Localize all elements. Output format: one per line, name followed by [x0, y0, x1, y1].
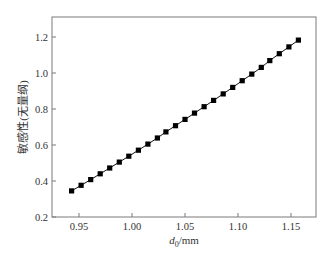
x-axis-ticks: 0.951.001.051.101.15 [70, 213, 300, 232]
data-point-marker [192, 111, 197, 116]
data-point-marker [296, 38, 301, 43]
data-point-marker [69, 188, 74, 193]
data-point-marker [202, 104, 207, 109]
x-tick-label: 1.00 [123, 221, 141, 232]
y-tick-label: 1.2 [35, 32, 48, 43]
y-tick-label: 1.0 [35, 68, 48, 79]
data-point-marker [286, 44, 291, 49]
data-point-marker [107, 165, 112, 170]
data-point-marker [211, 98, 216, 103]
data-point-marker [88, 177, 93, 182]
data-point-marker [155, 135, 160, 140]
data-point-marker [230, 85, 235, 90]
x-tick-label: 1.10 [229, 221, 247, 232]
data-point-marker [240, 78, 245, 83]
data-point-marker [79, 183, 84, 188]
data-point-marker [267, 58, 272, 63]
x-label-unit: /mm [179, 234, 200, 246]
data-point-marker [249, 72, 254, 77]
x-tick-label: 0.95 [70, 221, 88, 232]
data-point-marker [163, 129, 168, 134]
x-tick-label: 1.05 [176, 221, 194, 232]
y-axis-ticks: 0.20.40.60.81.01.2 [35, 32, 56, 223]
data-point-marker [98, 171, 103, 176]
data-point-marker [221, 91, 226, 96]
data-point-marker [173, 123, 178, 128]
data-point-marker [277, 51, 282, 56]
data-point-marker [136, 148, 141, 153]
y-tick-label: 0.6 [35, 140, 48, 151]
data-markers [69, 38, 301, 194]
x-tick-label: 1.15 [282, 221, 300, 232]
sensitivity-chart: 0.20.40.60.81.01.2 0.951.001.051.101.15 … [0, 0, 333, 260]
x-axis-label: d0/mm [169, 234, 199, 249]
y-axis-label: 敏感性(无量纲) [16, 80, 30, 154]
data-point-marker [126, 154, 131, 159]
data-point-marker [117, 160, 122, 165]
data-point-marker [259, 65, 264, 70]
data-line [72, 40, 299, 191]
data-point-marker [145, 142, 150, 147]
y-tick-label: 0.4 [35, 176, 49, 187]
y-tick-label: 0.2 [35, 212, 48, 223]
data-point-marker [182, 117, 187, 122]
y-tick-label: 0.8 [35, 104, 48, 115]
